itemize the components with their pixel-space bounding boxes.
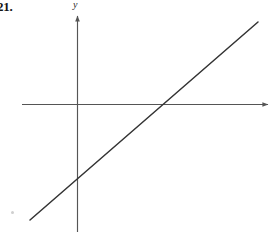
graph-line xyxy=(30,22,258,220)
scan-artifact-speck xyxy=(11,211,14,214)
y-axis-label: y xyxy=(73,0,77,10)
coordinate-plane-graphic xyxy=(0,0,276,232)
figure-container: 21. y xyxy=(0,0,276,232)
